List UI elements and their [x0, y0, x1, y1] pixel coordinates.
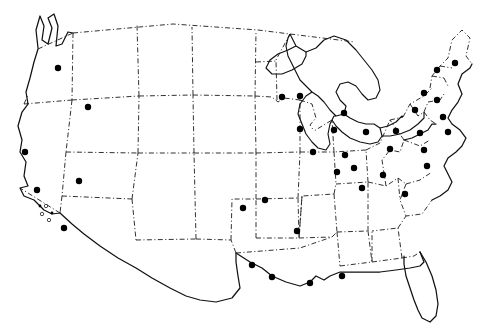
map-data-point — [342, 152, 348, 158]
map-data-point — [334, 169, 340, 175]
map-data-point — [417, 130, 423, 136]
map-data-point — [339, 273, 345, 279]
map-data-point — [359, 185, 365, 191]
map-data-point — [262, 197, 268, 203]
map-data-point — [434, 97, 440, 103]
map-data-point — [310, 149, 316, 155]
map-data-point — [40, 212, 43, 215]
dot-distribution-map — [0, 0, 495, 334]
map-data-point — [22, 149, 28, 155]
map-data-point — [51, 212, 54, 215]
map-data-point — [249, 262, 255, 268]
map-data-point — [440, 114, 446, 120]
map-data-point — [421, 147, 427, 153]
map-data-point — [34, 187, 40, 193]
map-data-point — [402, 191, 408, 197]
map-data-point — [307, 280, 313, 286]
map-data-point — [55, 65, 61, 71]
map-data-point — [380, 172, 386, 178]
map-data-point — [279, 94, 285, 100]
map-canvas — [0, 0, 495, 334]
map-data-point — [393, 128, 399, 134]
map-data-point — [269, 274, 275, 280]
map-data-point — [387, 146, 393, 152]
map-data-point — [331, 127, 337, 133]
map-data-point — [297, 93, 303, 99]
map-data-point — [412, 107, 418, 113]
state-border-layer — [20, 24, 472, 266]
coastline-layer — [18, 14, 472, 322]
map-data-point — [294, 228, 300, 234]
map-data-point — [85, 104, 91, 110]
map-data-point — [39, 205, 42, 208]
map-data-point — [61, 225, 67, 231]
map-data-point — [44, 204, 47, 207]
map-data-point — [434, 67, 440, 73]
map-data-point — [341, 110, 347, 116]
map-data-point — [297, 126, 303, 132]
map-data-point — [76, 178, 82, 184]
map-data-point — [240, 205, 246, 211]
map-data-point — [47, 218, 50, 221]
map-data-point — [445, 129, 451, 135]
map-data-point — [424, 163, 430, 169]
map-data-point — [363, 129, 369, 135]
map-data-point — [421, 90, 427, 96]
great-lakes-layer — [266, 34, 424, 150]
map-data-point — [351, 165, 357, 171]
map-data-point — [452, 60, 458, 66]
